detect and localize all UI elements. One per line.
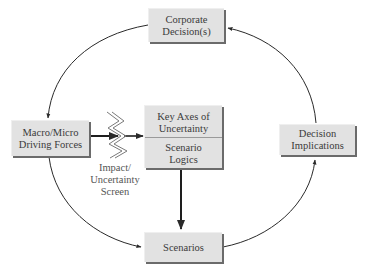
node-key-axes-of-uncertainty: Key Axes of Uncertainty: [145, 106, 222, 138]
node-key-axes-scenario-logics: Key Axes of Uncertainty Scenario Logics: [144, 105, 222, 168]
screen-label-line2: Uncertainty: [84, 174, 146, 186]
node-scenario-logics-line2: Logics: [169, 154, 198, 166]
node-decision-implications: Decision Implications: [279, 124, 355, 155]
screen-label-line1: Impact/: [84, 162, 146, 174]
node-scenarios-label: Scenarios: [163, 242, 204, 254]
node-key-axes-line2: Uncertainty: [159, 123, 209, 135]
node-key-axes-line1: Key Axes of: [157, 111, 210, 123]
node-driving-forces: Macro/Micro Driving Forces: [11, 120, 89, 156]
node-driving-forces-line2: Driving Forces: [19, 139, 82, 151]
screen-label-line3: Screen: [84, 186, 146, 198]
arc-scenarios-to-decision-implications: [223, 160, 315, 247]
node-scenario-logics: Scenario Logics: [145, 138, 222, 168]
node-corporate-decisions: Corporate Decision(s): [148, 8, 224, 42]
node-decision-implications-line2: Implications: [291, 140, 344, 152]
node-driving-forces-line1: Macro/Micro: [23, 127, 79, 139]
node-corporate-decisions-line1: Corporate: [166, 14, 208, 26]
node-scenario-logics-line1: Scenario: [165, 142, 202, 154]
node-corporate-decisions-line2: Decision(s): [162, 26, 210, 38]
arc-decision-implications-to-corporate: [228, 28, 316, 123]
node-scenarios: Scenarios: [144, 232, 222, 262]
scenario-planning-diagram: Corporate Decision(s) Macro/Micro Drivin…: [0, 0, 367, 275]
node-decision-implications-line1: Decision: [299, 128, 336, 140]
arc-corporate-to-driving-forces: [48, 25, 148, 118]
screen-label: Impact/ Uncertainty Screen: [84, 162, 146, 198]
